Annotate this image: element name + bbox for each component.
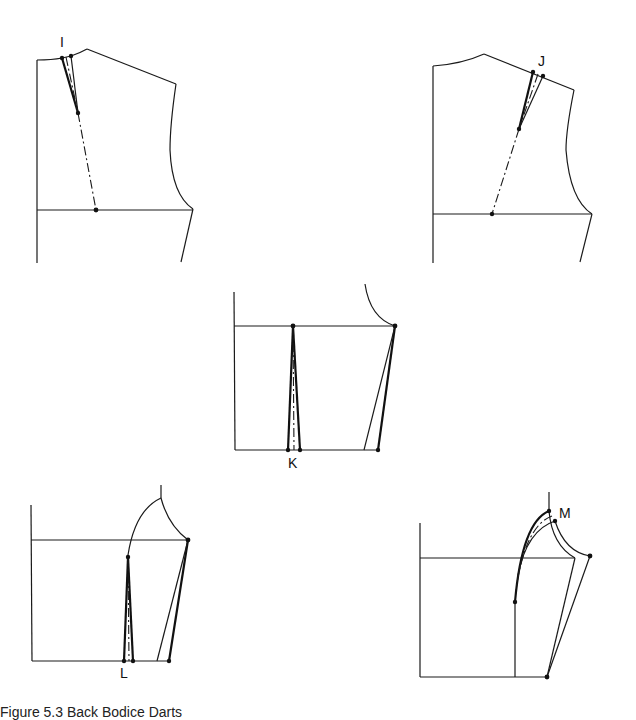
panel-m: M — [420, 492, 592, 679]
panel-j: J — [433, 53, 592, 263]
label-j: J — [538, 53, 545, 69]
panel-i: I — [37, 34, 193, 263]
figure-caption: Figure 5.3 Back Bodice Darts — [0, 704, 182, 720]
panel-k: K — [234, 284, 397, 471]
label-m: M — [559, 505, 571, 521]
label-l: L — [120, 665, 128, 681]
panel-l: L — [31, 485, 190, 681]
label-i: I — [60, 34, 64, 50]
label-k: K — [288, 455, 298, 471]
